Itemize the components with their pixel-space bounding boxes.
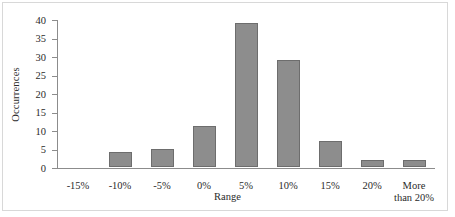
y-axis-tick: 10	[52, 131, 58, 132]
y-axis-tick-label: 0	[41, 163, 46, 174]
y-axis-tick-label: 30	[36, 52, 47, 63]
y-axis-tick: 20	[52, 94, 58, 95]
bar	[193, 126, 216, 167]
y-axis-tick-label: 15	[36, 108, 47, 119]
bar	[277, 60, 300, 167]
y-axis-tick: 35	[52, 39, 58, 40]
y-axis-title: Occurrences	[8, 20, 22, 168]
y-axis-tick: 5	[52, 150, 58, 151]
bar	[361, 160, 384, 167]
y-axis-tick-label: 10	[36, 126, 47, 137]
y-axis-tick: 25	[52, 76, 58, 77]
y-axis-tick: 40	[52, 20, 58, 21]
y-axis-tick-label: 35	[36, 34, 47, 45]
x-axis-line	[57, 168, 435, 169]
x-axis-title: Range	[0, 191, 455, 202]
y-axis-tick: 15	[52, 113, 58, 114]
y-axis-title-text: Occurrences	[10, 67, 21, 122]
plot-area: 0510152025303540 -15%-10%-5%0%5%10%15%20…	[57, 20, 435, 168]
y-axis-tick-label: 40	[36, 15, 47, 26]
bar	[403, 160, 426, 167]
bar	[109, 152, 132, 167]
bar	[151, 149, 174, 168]
y-axis-tick: 30	[52, 57, 58, 58]
y-axis-tick-label: 25	[36, 71, 47, 82]
bar	[319, 141, 342, 167]
y-axis-tick-label: 5	[41, 145, 46, 156]
histogram-figure: Occurrences 0510152025303540 -15%-10%-5%…	[0, 0, 455, 217]
y-axis-tick: 0	[52, 168, 58, 169]
bar	[235, 23, 258, 167]
y-axis-tick-label: 20	[36, 89, 47, 100]
